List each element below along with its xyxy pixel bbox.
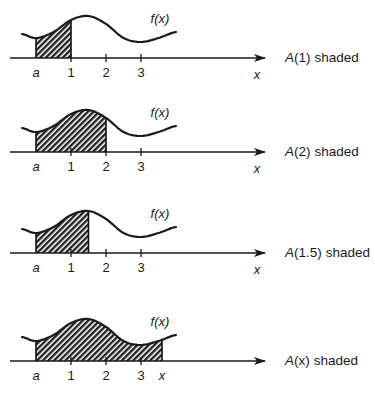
caption-argument: (1.5) bbox=[294, 245, 322, 260]
caption-area-symbol: A bbox=[284, 50, 294, 65]
lower-limit-label: a bbox=[32, 65, 39, 80]
shaded-area bbox=[36, 319, 162, 361]
caption-argument: (1) bbox=[294, 50, 311, 65]
panel-caption: A(x)shaded bbox=[284, 353, 358, 368]
function-label: f(x) bbox=[151, 314, 170, 329]
tick-label-1: 1 bbox=[67, 159, 74, 174]
shaded-area bbox=[36, 20, 71, 58]
panel-caption: A(2)shaded bbox=[284, 144, 359, 159]
function-label: f(x) bbox=[151, 11, 170, 26]
lower-limit-label: a bbox=[32, 159, 39, 174]
x-axis-label: x bbox=[253, 67, 261, 82]
tick-label-2: 2 bbox=[102, 260, 109, 275]
tick-label-3: 3 bbox=[137, 159, 144, 174]
tick-label-2: 2 bbox=[102, 65, 109, 80]
caption-suffix: shaded bbox=[314, 353, 358, 368]
caption-argument: (2) bbox=[294, 144, 311, 159]
function-label: f(x) bbox=[151, 206, 170, 221]
panel-3: a 1 2 3 x f(x) A(1.5)shaded bbox=[10, 206, 370, 277]
caption-area-symbol: A bbox=[284, 353, 294, 368]
caption-area-symbol: A bbox=[284, 144, 294, 159]
shaded-area bbox=[36, 110, 106, 152]
caption-suffix: shaded bbox=[315, 144, 359, 159]
tick-label-2: 2 bbox=[102, 368, 109, 383]
tick-label-1: 1 bbox=[67, 260, 74, 275]
lower-limit-label: a bbox=[32, 368, 39, 383]
caption-argument: (x) bbox=[294, 353, 310, 368]
panel-2: a 1 2 3 x f(x) A(2)shaded bbox=[10, 105, 359, 176]
tick-label-1: 1 bbox=[67, 368, 74, 383]
tick-label-3: 3 bbox=[137, 65, 144, 80]
panel-1: a 1 2 3 x f(x) A(1)shaded bbox=[10, 11, 359, 82]
x-axis-label: x bbox=[253, 262, 261, 277]
area-function-figure: a 1 2 3 x f(x) A(1)shaded a 1 2 3 x f(x)… bbox=[0, 0, 375, 393]
panel-caption: A(1.5)shaded bbox=[284, 245, 370, 260]
caption-suffix: shaded bbox=[326, 245, 370, 260]
caption-suffix: shaded bbox=[315, 50, 359, 65]
x-axis-label: x bbox=[253, 161, 261, 176]
function-label: f(x) bbox=[151, 105, 170, 120]
tick-label-3: 3 bbox=[137, 260, 144, 275]
panel-caption: A(1)shaded bbox=[284, 50, 359, 65]
x-axis-label: x bbox=[158, 368, 166, 383]
lower-limit-label: a bbox=[32, 260, 39, 275]
tick-label-3: 3 bbox=[137, 368, 144, 383]
tick-label-2: 2 bbox=[102, 159, 109, 174]
panel-4: a 1 2 3 x f(x) A(x)shaded bbox=[10, 314, 358, 383]
caption-area-symbol: A bbox=[284, 245, 294, 260]
tick-label-1: 1 bbox=[67, 65, 74, 80]
